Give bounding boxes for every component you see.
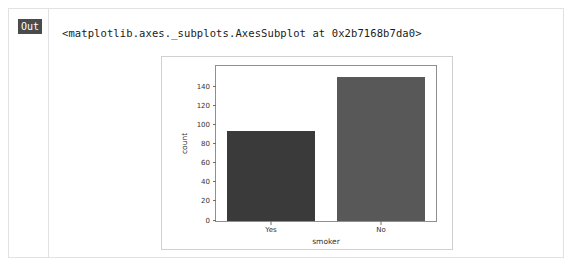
notebook-output-cell: Out <matplotlib.axes._subplots.AxesSubpl… <box>8 8 564 258</box>
matplotlib-figure: count 020406080100120140 YesNo smoker <box>161 56 453 250</box>
y-axis-label: count <box>180 65 190 222</box>
output-prompt-gutter: Out <box>9 9 49 257</box>
chart-plot-area <box>216 66 436 221</box>
output-prompt-badge: Out <box>18 19 42 34</box>
y-axis-label-text: count <box>181 133 190 154</box>
y-tick-mark <box>213 162 217 163</box>
y-tick-label: 120 <box>197 102 210 110</box>
y-tick-mark <box>213 143 217 144</box>
x-tick-label: No <box>376 226 386 234</box>
y-tick-mark <box>213 124 217 125</box>
y-tick-label: 100 <box>197 121 210 129</box>
chart-axes: 020406080100120140 YesNo <box>215 65 437 222</box>
x-axis-label: smoker <box>215 237 437 246</box>
axes-repr-text: <matplotlib.axes._subplots.AxesSubplot a… <box>62 27 422 39</box>
x-tick-mark <box>271 221 272 225</box>
y-tick-mark <box>213 105 217 106</box>
y-tick-label: 20 <box>201 197 210 205</box>
y-tick-mark <box>213 200 217 201</box>
x-axis-label-text: smoker <box>312 237 340 246</box>
bar-yes <box>227 131 315 221</box>
y-tick-mark <box>213 86 217 87</box>
bar-no <box>337 77 425 221</box>
x-tick-label: Yes <box>265 226 276 234</box>
y-tick-label: 40 <box>201 178 210 186</box>
output-cell-body: <matplotlib.axes._subplots.AxesSubplot a… <box>50 9 563 257</box>
y-tick-label: 0 <box>206 216 210 224</box>
screen-root: Out <matplotlib.axes._subplots.AxesSubpl… <box>0 0 580 274</box>
y-tick-mark <box>213 181 217 182</box>
x-tick-mark <box>381 221 382 225</box>
y-tick-label: 140 <box>197 83 210 91</box>
y-tick-mark <box>213 220 217 221</box>
y-tick-label: 80 <box>201 140 210 148</box>
y-tick-label: 60 <box>201 159 210 167</box>
